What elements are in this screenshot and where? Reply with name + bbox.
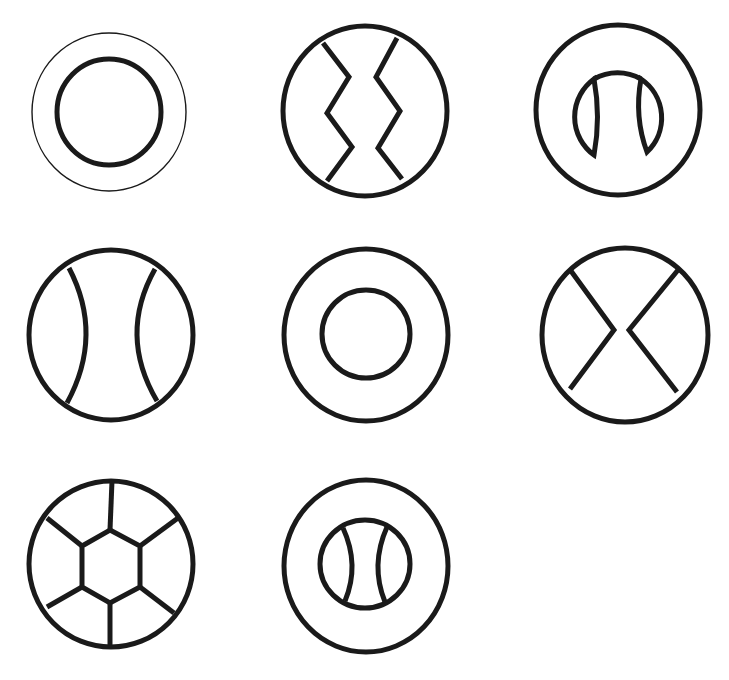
diagram-canvas <box>0 0 729 680</box>
figure-concentric-rings <box>284 249 448 421</box>
figure-seam-ball <box>29 250 193 420</box>
figure-zigzag-split-circle <box>283 26 447 196</box>
figure-double-ring-thin-outer <box>32 33 186 191</box>
figure-nested-seam-ball <box>284 480 448 652</box>
figure-arch-with-lenses <box>536 25 700 195</box>
figure-hexagon-wheel <box>29 481 193 647</box>
figure-bowtie-circle <box>542 248 708 422</box>
